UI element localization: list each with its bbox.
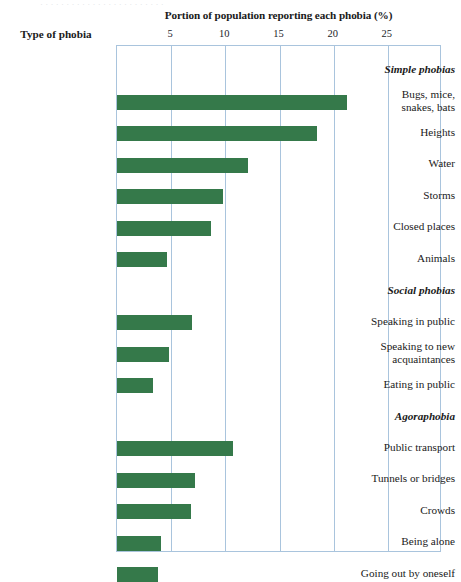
row-label-crowds: Crowds xyxy=(349,504,461,516)
gridline-20 xyxy=(334,46,335,551)
row-label-line: Tunnels or bridges xyxy=(349,472,455,484)
row-label-line: acquaintances xyxy=(349,353,455,365)
row-label-bugs-mice-snakes-bats: Bugs, mice,snakes, bats xyxy=(349,88,461,113)
bar-eating-in-public xyxy=(117,378,153,393)
bar-tunnels-or-bridges xyxy=(117,473,195,488)
gridline-15 xyxy=(280,46,281,551)
row-label-speaking-in-public: Speaking in public xyxy=(349,315,461,327)
row-label-line: Closed places xyxy=(349,220,455,232)
category-column-header: Type of phobia xyxy=(0,28,112,40)
group-header-social-phobias: Social phobias xyxy=(349,284,461,296)
row-label-line: Bugs, mice, xyxy=(349,88,455,100)
row-label-going-out-by-oneself: Going out by oneself xyxy=(349,567,461,579)
x-tick-label-10: 10 xyxy=(219,28,230,39)
row-label-line: Going out by oneself xyxy=(349,567,455,579)
row-label-line: Public transport xyxy=(349,441,455,453)
row-label-line: Speaking in public xyxy=(349,315,455,327)
row-label-line: Storms xyxy=(349,189,455,201)
bar-being-alone xyxy=(117,536,161,551)
row-label-tunnels-or-bridges: Tunnels or bridges xyxy=(349,472,461,484)
row-label-being-alone: Being alone xyxy=(349,535,461,547)
bar-water xyxy=(117,158,248,173)
bar-bugs-mice-snakes-bats xyxy=(117,95,347,110)
row-label-line: snakes, bats xyxy=(349,101,455,113)
x-tick-label-5: 5 xyxy=(168,28,173,39)
row-label-line: Speaking to new xyxy=(349,340,455,352)
bar-going-out-by-oneself xyxy=(117,567,158,582)
bar-storms xyxy=(117,189,223,204)
row-label-line: Crowds xyxy=(349,504,455,516)
chart-title: Portion of population reporting each pho… xyxy=(116,9,441,21)
bar-speaking-to-new-acquaintances xyxy=(117,347,169,362)
row-label-speaking-to-new-acquaintances: Speaking to newacquaintances xyxy=(349,340,461,365)
x-tick-label-25: 25 xyxy=(382,28,393,39)
x-tick-label-20: 20 xyxy=(327,28,338,39)
bar-closed-places xyxy=(117,221,211,236)
row-label-eating-in-public: Eating in public xyxy=(349,378,461,390)
row-label-line: Heights xyxy=(349,126,455,138)
row-label-line: Animals xyxy=(349,252,455,264)
row-label-line: Being alone xyxy=(349,535,455,547)
group-header-simple-phobias: Simple phobias xyxy=(349,63,461,75)
group-header-agoraphobia: Agoraphobia xyxy=(349,410,461,422)
row-label-line: Water xyxy=(349,157,455,169)
row-label-closed-places: Closed places xyxy=(349,220,461,232)
bar-speaking-in-public xyxy=(117,315,192,330)
row-label-heights: Heights xyxy=(349,126,461,138)
row-label-water: Water xyxy=(349,157,461,169)
bar-animals xyxy=(117,252,167,267)
bar-crowds xyxy=(117,504,191,519)
bar-heights xyxy=(117,126,317,141)
x-tick-label-15: 15 xyxy=(273,28,284,39)
scan-edge-artifact: · · · · · · · · · · · · · · · · · · · · … xyxy=(40,0,420,7)
row-label-storms: Storms xyxy=(349,189,461,201)
row-label-public-transport: Public transport xyxy=(349,441,461,453)
row-label-animals: Animals xyxy=(349,252,461,264)
row-label-line: Eating in public xyxy=(349,378,455,390)
gridline-10 xyxy=(225,46,226,551)
bar-public-transport xyxy=(117,441,233,456)
